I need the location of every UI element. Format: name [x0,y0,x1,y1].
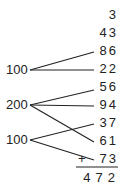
plus-sign: + [78,151,86,166]
addend-61: 61 [78,134,118,148]
addend-56: 56 [78,80,118,94]
addend-43: 43 [78,26,118,40]
addend-86: 86 [78,44,118,58]
addend-37: 37 [78,116,118,130]
group-label-100-second: 100 [6,133,28,147]
group-label-200: 200 [6,98,28,112]
addend-3: 3 [78,8,118,22]
addend-22: 22 [78,62,118,76]
addend-94: 94 [78,98,118,112]
sum-total: 472 [70,171,120,185]
group-label-100-first: 100 [6,63,28,77]
